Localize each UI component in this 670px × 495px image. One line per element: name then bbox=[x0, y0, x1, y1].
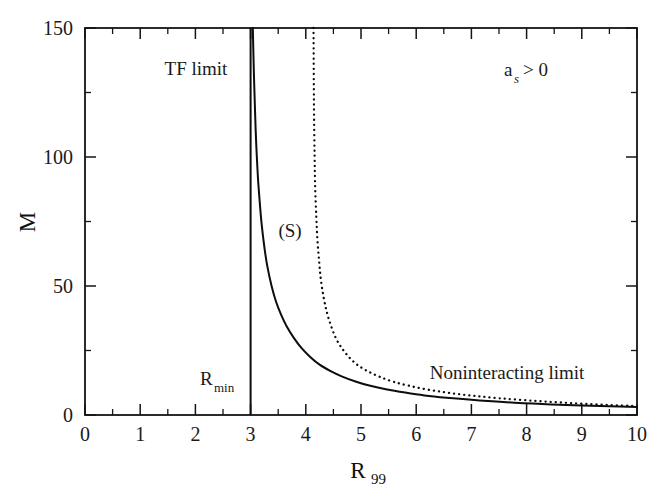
y-tick-label: 100 bbox=[43, 146, 73, 168]
y-tick-label: 150 bbox=[43, 17, 73, 39]
x-tick-label: 4 bbox=[301, 423, 311, 445]
x-axis-title-base: R bbox=[350, 458, 366, 483]
x-tick-label: 3 bbox=[246, 423, 256, 445]
x-axis-tick-labels: 012345678910 bbox=[80, 423, 647, 445]
annotation-rmin-subscript: min bbox=[214, 380, 235, 395]
annotation-as-subscript: s bbox=[514, 71, 519, 86]
annotation-noninteracting-limit: Noninteracting limit bbox=[430, 362, 585, 383]
x-axis-minor-ticks bbox=[113, 28, 610, 415]
annotation-as-positive: a s > 0 bbox=[504, 59, 548, 86]
x-tick-label: 9 bbox=[577, 423, 587, 445]
y-tick-label: 0 bbox=[63, 404, 73, 426]
x-tick-label: 10 bbox=[627, 423, 647, 445]
annotation-as-base: a bbox=[504, 59, 513, 80]
y-axis-minor-ticks bbox=[85, 93, 637, 351]
y-axis-title: M bbox=[15, 212, 40, 232]
y-tick-label: 50 bbox=[53, 275, 73, 297]
x-axis-title-subscript: 99 bbox=[371, 471, 386, 487]
unstable-branch-curve bbox=[314, 28, 637, 406]
x-axis-title: R 99 bbox=[350, 458, 386, 487]
y-axis-major-ticks bbox=[85, 28, 637, 415]
x-tick-label: 7 bbox=[466, 423, 476, 445]
plot-frame bbox=[85, 28, 637, 415]
x-tick-label: 2 bbox=[190, 423, 200, 445]
stable-branch-curve bbox=[253, 28, 637, 407]
x-axis-major-ticks bbox=[85, 28, 637, 415]
figure-root: 012345678910 050100150 M R 99 TF limit a… bbox=[0, 0, 670, 495]
x-tick-label: 0 bbox=[80, 423, 90, 445]
x-tick-label: 1 bbox=[135, 423, 145, 445]
annotation-as-relation: > 0 bbox=[523, 59, 548, 80]
x-tick-label: 8 bbox=[522, 423, 532, 445]
y-axis-tick-labels: 050100150 bbox=[43, 17, 73, 426]
x-tick-label: 6 bbox=[411, 423, 421, 445]
annotation-s-branch: (S) bbox=[278, 220, 301, 242]
annotation-rmin: R min bbox=[200, 368, 235, 395]
annotation-rmin-base: R bbox=[200, 368, 213, 389]
plot-canvas: 012345678910 050100150 M R 99 TF limit a… bbox=[0, 0, 670, 495]
x-tick-label: 5 bbox=[356, 423, 366, 445]
annotation-tf-limit: TF limit bbox=[165, 58, 229, 79]
